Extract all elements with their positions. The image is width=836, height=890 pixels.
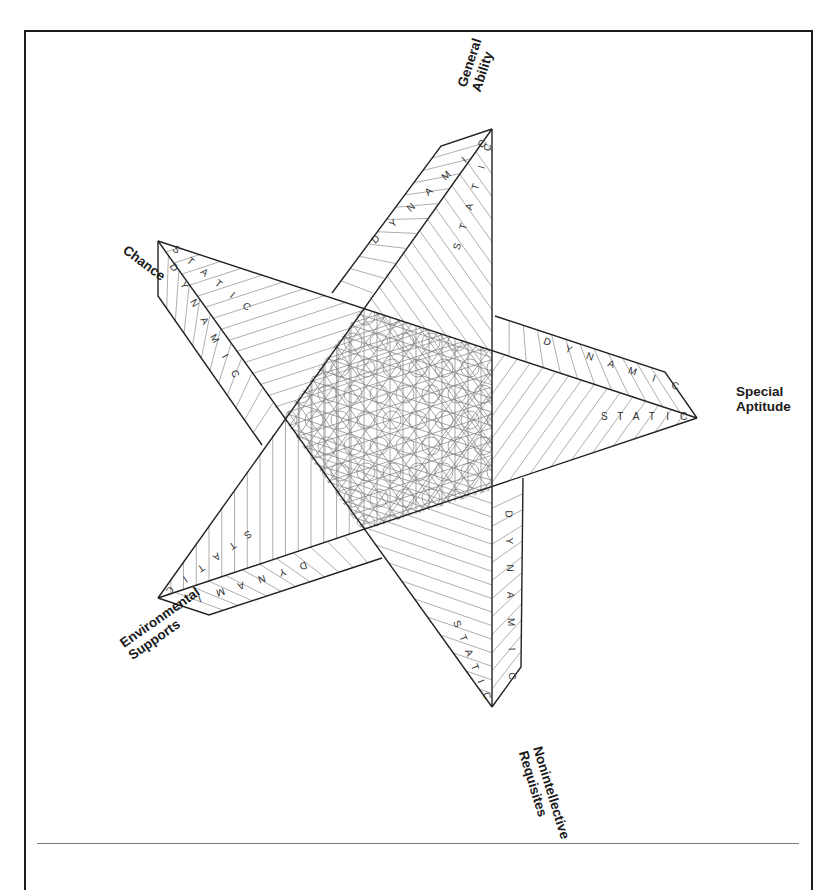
svg-text:A: A (211, 551, 223, 564)
svg-text:T: T (469, 662, 481, 672)
svg-text:T: T (457, 633, 469, 643)
svg-text:C: C (240, 300, 253, 313)
svg-text:C: C (507, 672, 518, 679)
svg-text:C: C (229, 368, 242, 380)
svg-text:A: A (505, 592, 516, 599)
svg-text:M: M (627, 364, 638, 377)
outline-layer (158, 129, 697, 707)
svg-text:I: I (666, 411, 669, 422)
nonintellective-requisites-label: NonintellectiveRequisites (516, 744, 573, 845)
svg-text:D: D (542, 335, 552, 348)
svg-text:Y: Y (387, 217, 400, 230)
svg-text:N: N (505, 564, 516, 571)
svg-text:I: I (651, 373, 657, 384)
svg-text:D: D (298, 560, 308, 573)
general-ability-label: GeneralAbility (455, 36, 499, 93)
svg-text:D: D (503, 510, 514, 517)
svg-text:T: T (185, 255, 197, 267)
svg-text:T: T (195, 562, 206, 575)
svg-text:Y: Y (504, 538, 515, 545)
svg-text:A: A (633, 411, 640, 422)
svg-text:I: I (181, 574, 190, 585)
svg-text:N: N (404, 201, 417, 214)
svg-text:I: I (220, 352, 231, 360)
svg-text:C: C (680, 411, 687, 422)
svg-text:A: A (463, 202, 476, 212)
svg-text:T: T (227, 540, 238, 553)
svg-text:M: M (208, 332, 222, 345)
svg-text:S: S (242, 528, 254, 541)
svg-text:S: S (601, 411, 608, 422)
svg-text:N: N (585, 350, 595, 363)
svg-text:D: D (369, 233, 382, 246)
svg-text:A: A (236, 580, 246, 593)
svg-text:Y: Y (564, 343, 574, 356)
special-aptitude-label: SpecialAptitude (736, 384, 791, 414)
svg-text:N: N (257, 573, 267, 586)
svg-text:A: A (606, 357, 616, 370)
svg-text:I: I (476, 678, 487, 685)
svg-text:T: T (617, 411, 623, 422)
special-aptitude-dynamic-strip (495, 316, 697, 418)
svg-text:M: M (506, 618, 517, 627)
svg-text:Special: Special (736, 384, 783, 399)
svg-text:N: N (188, 297, 201, 309)
svg-text:M: M (439, 169, 453, 183)
svg-text:Chance: Chance (120, 242, 168, 284)
svg-text:A: A (198, 315, 211, 327)
svg-text:Aptitude: Aptitude (736, 399, 791, 414)
svg-text:S: S (451, 241, 464, 251)
svg-text:T: T (457, 222, 469, 231)
chance-label: Chance (120, 242, 168, 284)
svg-text:A: A (463, 647, 476, 658)
svg-text:I: I (507, 647, 518, 650)
svg-text:Y: Y (277, 566, 287, 579)
svg-text:T: T (649, 411, 655, 422)
